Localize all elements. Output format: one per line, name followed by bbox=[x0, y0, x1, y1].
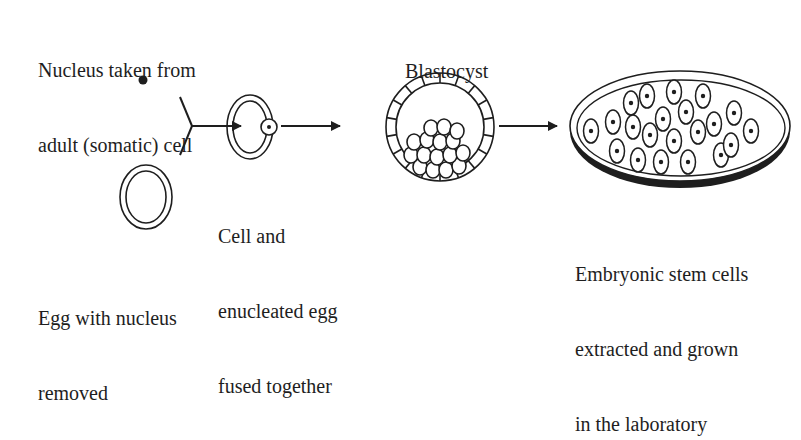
label-stem-cells-line1: Embryonic stem cells bbox=[575, 262, 748, 287]
label-fused-line1: Cell and bbox=[218, 224, 337, 249]
label-egg: Egg with nucleus removed bbox=[38, 256, 177, 440]
label-blastocyst: Blastocyst bbox=[405, 9, 488, 134]
label-blastocyst-line1: Blastocyst bbox=[405, 59, 488, 84]
petri-dish-icon bbox=[570, 71, 790, 188]
label-stem-cells-line2: extracted and grown bbox=[575, 337, 748, 362]
label-nucleus-line1: Nucleus taken from bbox=[38, 58, 196, 83]
label-stem-cells: Embryonic stem cells extracted and grown… bbox=[575, 212, 748, 440]
label-fused-line3: fused together bbox=[218, 374, 337, 399]
label-stem-cells-line3: in the laboratory bbox=[575, 412, 748, 437]
label-fused-line2: enucleated egg bbox=[218, 299, 337, 324]
label-nucleus-line2: adult (somatic) cell bbox=[38, 133, 196, 158]
label-nucleus: Nucleus taken from adult (somatic) cell bbox=[38, 8, 196, 208]
label-fused: Cell and enucleated egg fused together bbox=[218, 174, 337, 440]
label-egg-line2: removed bbox=[38, 381, 177, 406]
label-egg-line1: Egg with nucleus bbox=[38, 306, 177, 331]
